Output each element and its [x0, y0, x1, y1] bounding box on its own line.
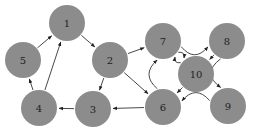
edge-4-to-5	[29, 79, 33, 90]
node-1: 1	[49, 5, 85, 41]
edge-7-to-10	[178, 52, 184, 58]
node-4: 4	[21, 90, 57, 126]
edge-6-to-3	[113, 108, 144, 109]
node-label: 6	[160, 102, 166, 113]
node-10: 10	[178, 56, 214, 92]
edge-10-to-6	[177, 87, 182, 92]
node-3: 3	[75, 91, 111, 127]
edge-7-to-8	[181, 47, 208, 55]
edge-2-to-7	[128, 48, 144, 54]
node-label: 7	[160, 36, 166, 47]
edge-9-to-6	[182, 93, 210, 101]
node-7: 7	[145, 23, 181, 59]
node-label: 4	[36, 103, 42, 114]
edge-5-to-1	[38, 36, 52, 48]
node-8: 8	[209, 23, 245, 59]
node-label: 8	[224, 36, 230, 47]
directed-graph: 12345678910	[0, 0, 253, 134]
node-label: 3	[90, 104, 96, 115]
node-label: 1	[64, 18, 70, 29]
node-5: 5	[5, 42, 41, 78]
edge-2-to-6	[124, 73, 148, 94]
node-label: 9	[225, 101, 231, 112]
edge-4-to-1	[45, 42, 61, 90]
edge-2-to-3	[100, 78, 104, 90]
edge-8-to-10	[210, 55, 214, 60]
edge-1-to-2	[81, 35, 94, 47]
node-2: 2	[92, 42, 128, 78]
node-label: 2	[107, 55, 113, 66]
node-9: 9	[210, 88, 246, 124]
edge-6-to-7	[149, 60, 157, 89]
edge-10-to-7	[175, 57, 181, 63]
node-6: 6	[145, 89, 181, 125]
node-label: 5	[20, 55, 26, 66]
nodes-layer: 12345678910	[5, 5, 246, 127]
node-label: 10	[190, 69, 203, 80]
